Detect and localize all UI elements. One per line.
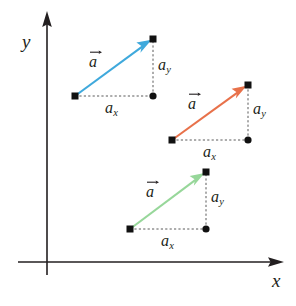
- orange-ax-label-base: a: [203, 143, 211, 160]
- blue-ax-label: ax: [105, 100, 118, 119]
- vector-overbar-arrow-icon: [189, 91, 201, 97]
- blue-vector-shaft: [75, 45, 145, 96]
- green-ay-label: ay: [211, 189, 224, 208]
- figure-canvas: [0, 0, 296, 306]
- green-tail-square-marker: [127, 226, 134, 233]
- vector-components-figure: y x a ax ay a ax ay a: [0, 0, 296, 306]
- blue-corner-dot-marker: [149, 92, 156, 99]
- x-axis: [18, 257, 284, 267]
- orange-tip-square-marker: [245, 82, 252, 89]
- vector-overbar-arrow-icon: [90, 49, 102, 55]
- x-axis-label: x: [272, 271, 280, 290]
- orange-vector-label: a: [188, 96, 196, 112]
- orange-corner-dot-marker: [244, 136, 251, 143]
- blue-ax-label-subscript: x: [113, 107, 118, 118]
- vector-overbar-arrow-icon: [147, 179, 159, 185]
- orange-ax-label: ax: [203, 144, 216, 163]
- vector-orange-group: [169, 82, 252, 144]
- green-ax-label-base: a: [161, 232, 169, 249]
- y-axis: [42, 11, 52, 275]
- orange-vector-arrowhead: [232, 86, 247, 99]
- y-axis-label: y: [22, 32, 30, 51]
- green-ax-label: ax: [161, 233, 174, 252]
- blue-vector-arrowhead: [136, 40, 151, 53]
- blue-vector-label: a: [89, 54, 97, 70]
- green-ay-label-base: a: [211, 188, 219, 205]
- orange-ax-label-subscript: x: [211, 151, 216, 162]
- orange-ay-label: ay: [253, 101, 266, 120]
- green-ay-label-subscript: y: [219, 196, 224, 207]
- blue-ay-label: ay: [158, 57, 171, 76]
- green-vector-label-text: a: [146, 183, 154, 200]
- green-vector-shaft: [130, 178, 198, 229]
- green-corner-dot-marker: [202, 225, 209, 232]
- blue-tail-square-marker: [72, 93, 79, 100]
- axes-group: [18, 11, 284, 275]
- orange-tail-square-marker: [169, 137, 176, 144]
- orange-ay-label-base: a: [253, 100, 261, 117]
- green-tip-square-marker: [203, 169, 210, 176]
- blue-ay-label-subscript: y: [166, 64, 171, 75]
- blue-tip-square-marker: [150, 36, 157, 43]
- green-ax-label-subscript: x: [169, 240, 174, 251]
- blue-vector-label-text: a: [89, 53, 97, 70]
- green-vector-label: a: [146, 184, 154, 200]
- orange-vector-shaft: [172, 91, 240, 140]
- orange-vector-label-text: a: [188, 95, 196, 112]
- blue-ay-label-base: a: [158, 56, 166, 73]
- vector-blue-group: [72, 36, 157, 100]
- blue-ax-label-base: a: [105, 99, 113, 116]
- orange-ay-label-subscript: y: [261, 108, 266, 119]
- vector-green-group: [127, 169, 210, 233]
